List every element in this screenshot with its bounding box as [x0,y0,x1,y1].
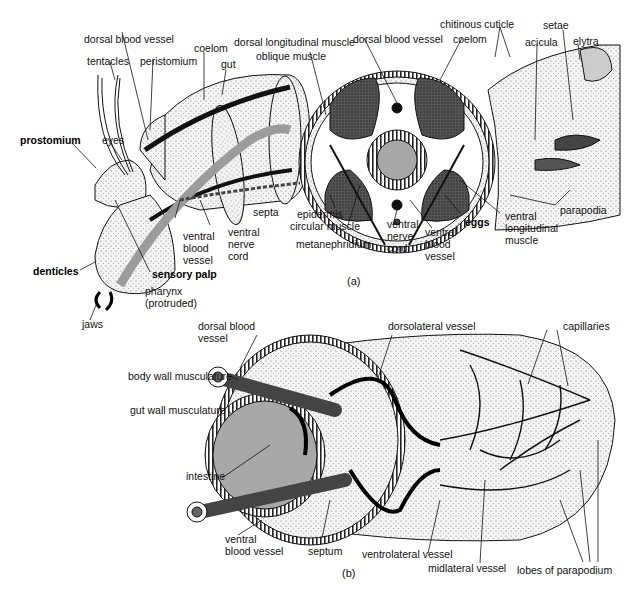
label-oblique-muscle: oblique muscle [256,50,326,62]
label-ventral-longitudinal-muscle: ventral longitudinal muscle [505,210,565,246]
label-coelom: coelom [194,42,228,54]
label-gut-wall-musculature: gut wall musculature [130,404,226,416]
label-parapodia: parapodia [560,204,607,216]
label-midlateral-vessel: midlateral vessel [428,562,506,574]
label-gut: gut [221,58,236,70]
label-ventral-nerve-cord: ventral nerve cord [228,226,268,262]
label-dorsolateral-vessel: dorsolateral vessel [388,320,476,332]
label-chitinous-cuticle: chitinous cuticle [440,18,514,30]
label-ventral-blood-vessel-center: ventral blood vessel [425,226,460,262]
label-dorsal-longitudinal-muscle: dorsal longitudinal muscle [234,36,355,48]
label-prostomium: prostomium [20,134,81,146]
label-eyes: eyes [102,134,124,146]
label-pharynx: pharynx (protruded) [145,285,215,309]
label-lobes-of-parapodium: lobes of parapodium [517,564,612,576]
label-dorsal-blood-vessel: dorsal blood vessel [84,33,174,45]
label-capillaries: capillaries [563,320,610,332]
tentacles-drawing [98,75,133,175]
label-tentacles: tentacles [87,55,129,67]
label-setae: setae [543,19,569,31]
label-sensory-palp: sensory palp [152,268,217,280]
label-septa: septa [253,206,279,218]
caption-b: (b) [342,567,355,579]
label-acicula: acicula [525,36,558,48]
label-dorsal-blood-vessel-center: dorsal blood vessel [353,33,443,45]
diagram-artwork [0,0,629,602]
caption-a: (a) [347,275,360,287]
label-ventral-blood-vessel-b: ventral blood vessel [225,533,285,557]
label-denticles: denticles [33,265,79,277]
label-jaws: jaws [82,318,103,330]
label-peristomium: peristomium [140,55,197,67]
label-coelom-center: coelom [453,33,487,45]
label-metanephridium: metanephridium [296,238,371,250]
label-epidermis: epidermis [297,208,343,220]
label-eggs: eggs [465,216,490,228]
label-dorsal-blood-vessel-b: dorsal blood vessel [198,320,258,344]
label-circular-muscle: circular muscle [290,220,360,232]
polychaete-anatomy-figure: dorsal blood vessel tentacles peristomiu… [0,0,629,602]
label-ventrolateral-vessel: ventrolateral vessel [362,548,452,560]
label-intestine: intestine [186,470,225,482]
parapodia-view [488,45,620,230]
label-body-wall-musculature: body wall musculature [128,370,232,382]
label-ventral-blood-vessel: ventral blood vessel [183,230,223,266]
label-septum: septum [308,545,342,557]
label-ventral-nerve-cord-center: ventral nerve cord [387,218,422,254]
label-elytra: elytra [573,35,599,47]
